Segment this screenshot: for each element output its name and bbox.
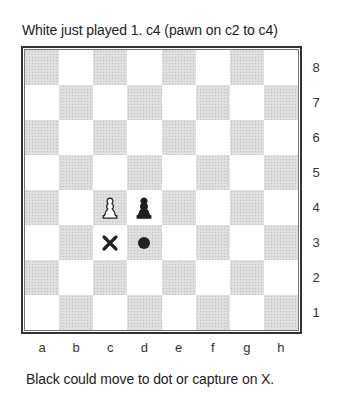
square-e2[interactable] xyxy=(162,260,196,295)
capture-x-icon xyxy=(101,234,119,252)
square-b4[interactable] xyxy=(59,190,93,225)
file-label-a: a xyxy=(36,340,48,355)
square-f5[interactable] xyxy=(196,155,230,190)
bottom-caption: Black could move to dot or capture on X. xyxy=(26,371,274,387)
square-f1[interactable] xyxy=(196,295,230,330)
square-g8[interactable] xyxy=(230,50,264,85)
square-b2[interactable] xyxy=(59,260,93,295)
square-e7[interactable] xyxy=(162,85,196,120)
square-h8[interactable] xyxy=(264,50,298,85)
square-h5[interactable] xyxy=(264,155,298,190)
chess-board xyxy=(25,50,298,330)
top-caption: White just played 1. c4 (pawn on c2 to c… xyxy=(22,22,278,38)
rank-label-7: 7 xyxy=(310,95,322,110)
square-h1[interactable] xyxy=(264,295,298,330)
square-c7[interactable] xyxy=(93,85,127,120)
rank-label-8: 8 xyxy=(310,60,322,75)
square-h2[interactable] xyxy=(264,260,298,295)
white-pawn-icon[interactable] xyxy=(100,196,120,220)
rank-label-5: 5 xyxy=(310,165,322,180)
file-label-e: e xyxy=(173,340,185,355)
square-c1[interactable] xyxy=(93,295,127,330)
square-c6[interactable] xyxy=(93,120,127,155)
square-d7[interactable] xyxy=(127,85,161,120)
square-a5[interactable] xyxy=(25,155,59,190)
square-d5[interactable] xyxy=(127,155,161,190)
square-f8[interactable] xyxy=(196,50,230,85)
square-d6[interactable] xyxy=(127,120,161,155)
square-h3[interactable] xyxy=(264,225,298,260)
file-label-b: b xyxy=(70,340,82,355)
file-label-c: c xyxy=(104,340,116,355)
file-label-h: h xyxy=(275,340,287,355)
square-g1[interactable] xyxy=(230,295,264,330)
square-e5[interactable] xyxy=(162,155,196,190)
square-e1[interactable] xyxy=(162,295,196,330)
square-f7[interactable] xyxy=(196,85,230,120)
square-a6[interactable] xyxy=(25,120,59,155)
square-e3[interactable] xyxy=(162,225,196,260)
square-a3[interactable] xyxy=(25,225,59,260)
square-d8[interactable] xyxy=(127,50,161,85)
rank-label-1: 1 xyxy=(310,305,322,320)
square-h7[interactable] xyxy=(264,85,298,120)
square-g5[interactable] xyxy=(230,155,264,190)
square-a7[interactable] xyxy=(25,85,59,120)
square-e8[interactable] xyxy=(162,50,196,85)
square-f4[interactable] xyxy=(196,190,230,225)
square-g4[interactable] xyxy=(230,190,264,225)
square-b1[interactable] xyxy=(59,295,93,330)
move-dot-icon xyxy=(138,237,150,249)
square-g3[interactable] xyxy=(230,225,264,260)
rank-label-3: 3 xyxy=(310,235,322,250)
square-c3[interactable] xyxy=(93,225,127,260)
square-g7[interactable] xyxy=(230,85,264,120)
square-b5[interactable] xyxy=(59,155,93,190)
square-b8[interactable] xyxy=(59,50,93,85)
square-e6[interactable] xyxy=(162,120,196,155)
square-d1[interactable] xyxy=(127,295,161,330)
square-a2[interactable] xyxy=(25,260,59,295)
square-b3[interactable] xyxy=(59,225,93,260)
square-e4[interactable] xyxy=(162,190,196,225)
file-label-g: g xyxy=(241,340,253,355)
square-h4[interactable] xyxy=(264,190,298,225)
square-f6[interactable] xyxy=(196,120,230,155)
rank-label-4: 4 xyxy=(310,200,322,215)
square-c8[interactable] xyxy=(93,50,127,85)
square-d4[interactable] xyxy=(127,190,161,225)
square-a4[interactable] xyxy=(25,190,59,225)
black-pawn-icon[interactable] xyxy=(134,196,154,220)
chess-board-frame xyxy=(21,46,302,334)
square-c4[interactable] xyxy=(93,190,127,225)
square-f3[interactable] xyxy=(196,225,230,260)
square-c2[interactable] xyxy=(93,260,127,295)
square-g6[interactable] xyxy=(230,120,264,155)
square-d2[interactable] xyxy=(127,260,161,295)
file-label-d: d xyxy=(138,340,150,355)
file-label-f: f xyxy=(207,340,219,355)
rank-label-6: 6 xyxy=(310,130,322,145)
square-g2[interactable] xyxy=(230,260,264,295)
square-c5[interactable] xyxy=(93,155,127,190)
square-d3[interactable] xyxy=(127,225,161,260)
square-h6[interactable] xyxy=(264,120,298,155)
rank-label-2: 2 xyxy=(310,270,322,285)
square-b6[interactable] xyxy=(59,120,93,155)
square-a8[interactable] xyxy=(25,50,59,85)
square-b7[interactable] xyxy=(59,85,93,120)
square-f2[interactable] xyxy=(196,260,230,295)
square-a1[interactable] xyxy=(25,295,59,330)
